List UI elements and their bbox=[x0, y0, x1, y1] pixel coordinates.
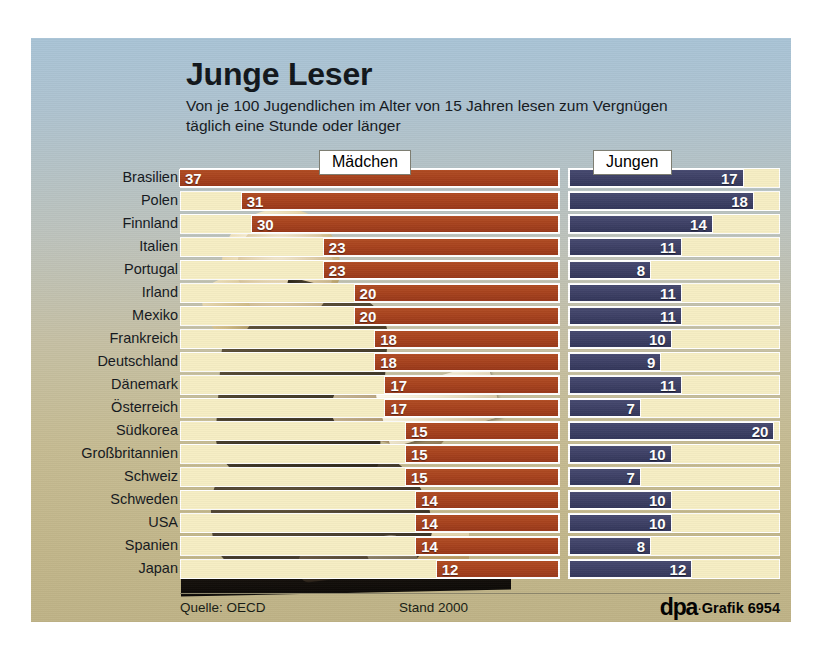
girls-bar bbox=[405, 468, 559, 486]
chart-row: Südkorea1520 bbox=[31, 420, 791, 443]
girls-bar-track: 12 bbox=[180, 559, 560, 579]
source-note: Quelle: OECD bbox=[180, 600, 266, 615]
country-label: Mexiko bbox=[38, 307, 178, 323]
girls-bar-track: 15 bbox=[180, 421, 560, 441]
country-label: Schweiz bbox=[38, 468, 178, 484]
boys-value-label: 8 bbox=[637, 538, 645, 555]
boys-bar-track: 10 bbox=[568, 444, 780, 464]
chart-row: Japan1212 bbox=[31, 558, 791, 581]
girls-bar-track: 20 bbox=[180, 306, 560, 326]
page-subtitle: Von je 100 Jugendlichen im Alter von 15 … bbox=[186, 96, 706, 136]
boys-bar-track: 8 bbox=[568, 260, 780, 280]
chart-row: Schweiz157 bbox=[31, 466, 791, 489]
girls-value-label: 23 bbox=[329, 262, 346, 279]
girls-bar-track: 14 bbox=[180, 536, 560, 556]
boys-value-label: 12 bbox=[670, 561, 687, 578]
girls-value-label: 14 bbox=[421, 538, 438, 555]
boys-bar-track: 10 bbox=[568, 490, 780, 510]
boys-value-label: 10 bbox=[649, 515, 666, 532]
girls-bar bbox=[323, 261, 559, 279]
boys-bar bbox=[569, 192, 754, 210]
girls-bar bbox=[354, 284, 559, 302]
girls-bar bbox=[405, 445, 559, 463]
boys-value-label: 20 bbox=[752, 423, 769, 440]
boys-value-label: 11 bbox=[660, 285, 676, 302]
boys-value-label: 18 bbox=[731, 193, 748, 210]
girls-bar-track: 15 bbox=[180, 467, 560, 487]
boys-value-label: 10 bbox=[649, 331, 666, 348]
girls-bar-track: 17 bbox=[180, 375, 560, 395]
girls-value-label: 17 bbox=[390, 400, 407, 417]
country-label: Portugal bbox=[38, 261, 178, 277]
girls-value-label: 18 bbox=[380, 331, 397, 348]
boys-value-label: 7 bbox=[627, 469, 635, 486]
country-label: Deutschland bbox=[38, 353, 178, 369]
boys-bar-track: 8 bbox=[568, 536, 780, 556]
chart-row: Großbritannien1510 bbox=[31, 443, 791, 466]
boys-value-label: 10 bbox=[649, 446, 666, 463]
girls-bar-track: 18 bbox=[180, 352, 560, 372]
country-label: USA bbox=[38, 514, 178, 530]
girls-value-label: 31 bbox=[247, 193, 264, 210]
chart-row: Schweden1410 bbox=[31, 489, 791, 512]
country-label: Japan bbox=[38, 560, 178, 576]
boys-value-label: 14 bbox=[690, 216, 707, 233]
chart-row: Polen3118 bbox=[31, 190, 791, 213]
boys-value-label: 11 bbox=[660, 239, 676, 256]
girls-value-label: 20 bbox=[360, 308, 377, 325]
date-note: Stand 2000 bbox=[399, 600, 468, 615]
chart-row: Dänemark1711 bbox=[31, 374, 791, 397]
girls-value-label: 12 bbox=[442, 561, 459, 578]
girls-bar-track: 23 bbox=[180, 237, 560, 257]
boys-value-label: 8 bbox=[637, 262, 645, 279]
girls-value-label: 17 bbox=[390, 377, 407, 394]
dpa-logo: dpa bbox=[660, 594, 697, 620]
country-label: Dänemark bbox=[38, 376, 178, 392]
girls-bar bbox=[354, 307, 559, 325]
boys-value-label: 9 bbox=[647, 354, 655, 371]
country-label: Südkorea bbox=[38, 422, 178, 438]
boys-bar bbox=[569, 422, 774, 440]
boys-value-label: 11 bbox=[660, 308, 676, 325]
girls-bar-track: 18 bbox=[180, 329, 560, 349]
girls-bar-track: 14 bbox=[180, 513, 560, 533]
girls-value-label: 15 bbox=[411, 446, 428, 463]
girls-bar bbox=[323, 238, 559, 256]
boys-value-label: 7 bbox=[627, 400, 635, 417]
girls-bar bbox=[251, 215, 559, 233]
chart-row: Deutschland189 bbox=[31, 351, 791, 374]
girls-bar-track: 15 bbox=[180, 444, 560, 464]
boys-bar-track: 11 bbox=[568, 237, 780, 257]
country-label: Frankreich bbox=[38, 330, 178, 346]
chart-row: Finnland3014 bbox=[31, 213, 791, 236]
boys-bar-track: 14 bbox=[568, 214, 780, 234]
infographic-poster: Junge Leser Von je 100 Jugendlichen im A… bbox=[31, 38, 791, 622]
chart-row: Spanien148 bbox=[31, 535, 791, 558]
girls-bar-track: 30 bbox=[180, 214, 560, 234]
country-label: Irland bbox=[38, 284, 178, 300]
chart-row: Österreich177 bbox=[31, 397, 791, 420]
chart-row: Brasilien3717 bbox=[31, 167, 791, 190]
boys-bar-track: 10 bbox=[568, 513, 780, 533]
chart-row: Portugal238 bbox=[31, 259, 791, 282]
country-label: Spanien bbox=[38, 537, 178, 553]
boys-bar-track: 18 bbox=[568, 191, 780, 211]
girls-value-label: 15 bbox=[411, 469, 428, 486]
boys-value-label: 17 bbox=[721, 170, 738, 187]
country-label: Polen bbox=[38, 192, 178, 208]
country-label: Brasilien bbox=[38, 169, 178, 185]
legend-label-girls: Mädchen bbox=[319, 150, 411, 175]
girls-bar bbox=[241, 192, 559, 210]
girls-bar-track: 31 bbox=[180, 191, 560, 211]
girls-value-label: 30 bbox=[257, 216, 274, 233]
girls-bar-track: 20 bbox=[180, 283, 560, 303]
boys-bar-track: 7 bbox=[568, 467, 780, 487]
girls-value-label: 15 bbox=[411, 423, 428, 440]
chart-row: Italien2311 bbox=[31, 236, 791, 259]
paired-bar-chart: Brasilien3717Polen3118Finnland3014Italie… bbox=[31, 167, 791, 581]
boys-bar-track: 20 bbox=[568, 421, 780, 441]
boys-bar-track: 10 bbox=[568, 329, 780, 349]
boys-bar-track: 12 bbox=[568, 559, 780, 579]
girls-bar-track: 17 bbox=[180, 398, 560, 418]
boys-bar-track: 11 bbox=[568, 283, 780, 303]
